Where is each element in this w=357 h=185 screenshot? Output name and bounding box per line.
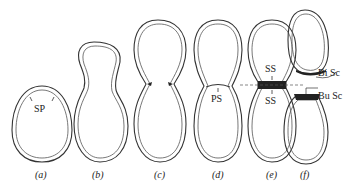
panel-label-e: (e): [266, 169, 278, 181]
panel-a: SP (a): [12, 86, 72, 181]
label-bu-sc: Bu Sc: [318, 90, 343, 101]
panel-c: (c): [134, 20, 186, 181]
label-ss-bottom: SS: [265, 95, 276, 106]
label-bi-sc: Bi Sc: [318, 67, 341, 78]
panel-d: PS (d): [194, 20, 242, 181]
cell-division-diagram: SP (a) (b) (c) PS (d) SS SS (e): [0, 0, 357, 185]
panel-f: Bi Sc Bu Sc (f): [284, 10, 343, 181]
panel-label-a: (a): [35, 169, 47, 181]
label-ss-top: SS: [265, 63, 276, 74]
label-sp: SP: [34, 103, 46, 114]
panel-b: (b): [74, 42, 128, 181]
panel-e: SS SS (e): [240, 20, 304, 181]
panel-label-d: (d): [212, 169, 224, 181]
label-ps: PS: [211, 93, 222, 104]
panel-label-f: (f): [300, 169, 310, 181]
panel-label-c: (c): [154, 169, 166, 181]
panel-label-b: (b): [92, 169, 104, 181]
